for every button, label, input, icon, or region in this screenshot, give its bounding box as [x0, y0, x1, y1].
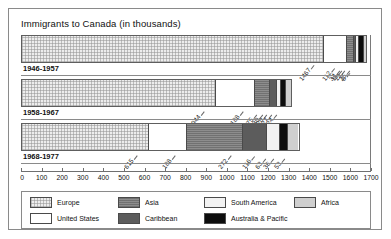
- bar-segment-europe[interactable]: [22, 80, 216, 106]
- legend-swatch-south-america: [204, 197, 226, 208]
- legend-item-south-america[interactable]: South America: [204, 197, 277, 208]
- stacked-bar-1968-1977: [21, 123, 300, 151]
- legend-label: United States: [57, 215, 99, 222]
- legend-label: Europe: [57, 199, 80, 206]
- legend-swatch-caribbean: [118, 213, 140, 224]
- legend-swatch-asia: [118, 197, 140, 208]
- x-axis-tick-label: 1700: [363, 174, 378, 181]
- x-axis-tick: [330, 168, 331, 171]
- x-axis-tick-label: 400: [98, 174, 109, 181]
- x-axis-tick-label: 1400: [302, 174, 317, 181]
- bar-year-label: 1958-1967: [23, 108, 59, 117]
- bar-segment-south-america[interactable]: [267, 124, 280, 150]
- x-axis-tick: [309, 168, 310, 171]
- x-axis-tick: [145, 168, 146, 171]
- x-axis-tick-label: 1200: [260, 174, 275, 181]
- row-baseline: [21, 163, 371, 164]
- legend-item-united-states[interactable]: United States: [30, 213, 99, 224]
- bar-segment-africa[interactable]: [364, 36, 366, 62]
- legend-swatch-europe: [30, 197, 52, 208]
- legend-swatch-united-states: [30, 213, 52, 224]
- x-axis-tick-label: 1500: [322, 174, 337, 181]
- x-axis-tick: [21, 168, 22, 171]
- legend-label: Africa: [321, 199, 339, 206]
- chart-frame: Immigrants to Canada (in thousands) 1467…: [8, 8, 382, 230]
- x-axis-tick-label: 0: [20, 174, 24, 181]
- x-axis-tick: [371, 168, 372, 171]
- x-axis-tick-label: 1300: [281, 174, 296, 181]
- legend-item-asia[interactable]: Asia: [118, 197, 159, 208]
- legend-item-australia-pacific[interactable]: Australia & Pacific: [204, 213, 287, 224]
- row-baseline: [21, 75, 371, 76]
- x-axis-tick: [83, 168, 84, 171]
- x-axis-tick-label: 800: [180, 174, 191, 181]
- x-axis-tick-label: 200: [57, 174, 68, 181]
- legend-label: South America: [231, 199, 277, 206]
- x-axis-line: [21, 171, 371, 172]
- x-axis-tick-label: 300: [77, 174, 88, 181]
- x-axis-tick: [350, 168, 351, 171]
- x-axis-tick: [124, 168, 125, 171]
- x-axis-tick: [247, 168, 248, 171]
- legend-item-europe[interactable]: Europe: [30, 197, 80, 208]
- x-axis-tick-label: 600: [139, 174, 150, 181]
- x-axis-tick-label: 100: [36, 174, 47, 181]
- bar-year-label: 1946-1957: [23, 64, 59, 73]
- legend-label: Caribbean: [145, 215, 177, 222]
- x-axis-tick: [206, 168, 207, 171]
- x-axis-tick: [165, 168, 166, 171]
- bar-segment-asia[interactable]: [347, 36, 354, 62]
- x-axis: 0100200300400500600700800900100011001200…: [21, 171, 371, 187]
- x-axis-tick: [103, 168, 104, 171]
- legend-swatch-africa: [294, 197, 316, 208]
- x-axis-tick-label: 1100: [240, 174, 255, 181]
- bar-segment-united-states[interactable]: [324, 36, 347, 62]
- plot-right-rule: [370, 35, 371, 171]
- plot-area: 14671123411122581946-1957944188753020272…: [21, 35, 371, 171]
- chart-legend: EuropeAsiaSouth AmericaAfricaUnited Stat…: [21, 191, 371, 229]
- bar-segment-asia[interactable]: [255, 80, 270, 106]
- bar-year-label: 1968-1977: [23, 152, 59, 161]
- chart-title: Immigrants to Canada (in thousands): [21, 18, 181, 29]
- bar-segment-africa[interactable]: [286, 80, 291, 106]
- x-axis-tick-label: 500: [118, 174, 129, 181]
- bar-segment-africa[interactable]: [288, 124, 299, 150]
- stacked-bar-1958-1967: [21, 79, 292, 107]
- x-axis-tick: [42, 168, 43, 171]
- x-axis-tick: [268, 168, 269, 171]
- bar-segment-united-states[interactable]: [149, 124, 188, 150]
- x-axis-tick-label: 1000: [219, 174, 234, 181]
- row-baseline: [21, 119, 371, 120]
- x-axis-tick: [62, 168, 63, 171]
- legend-swatch-australia-pacific: [204, 213, 226, 224]
- x-axis-tick: [186, 168, 187, 171]
- bar-segment-europe[interactable]: [22, 124, 149, 150]
- bar-segment-europe[interactable]: [22, 36, 324, 62]
- bar-segment-united-states[interactable]: [216, 80, 255, 106]
- legend-item-caribbean[interactable]: Caribbean: [118, 213, 177, 224]
- legend-label: Australia & Pacific: [231, 215, 287, 222]
- bar-segment-asia[interactable]: [187, 124, 243, 150]
- x-axis-tick-label: 1600: [343, 174, 358, 181]
- x-axis-tick-label: 900: [201, 174, 212, 181]
- x-axis-tick: [227, 168, 228, 171]
- x-axis-tick: [289, 168, 290, 171]
- stacked-bar-1946-1957: [21, 35, 367, 63]
- x-axis-tick-label: 700: [159, 174, 170, 181]
- bar-segment-australia-pacific[interactable]: [280, 124, 287, 150]
- value-label-1968-1977-africa: 53: [272, 160, 282, 170]
- bar-segment-caribbean[interactable]: [243, 124, 267, 150]
- legend-item-africa[interactable]: Africa: [294, 197, 339, 208]
- legend-label: Asia: [145, 199, 159, 206]
